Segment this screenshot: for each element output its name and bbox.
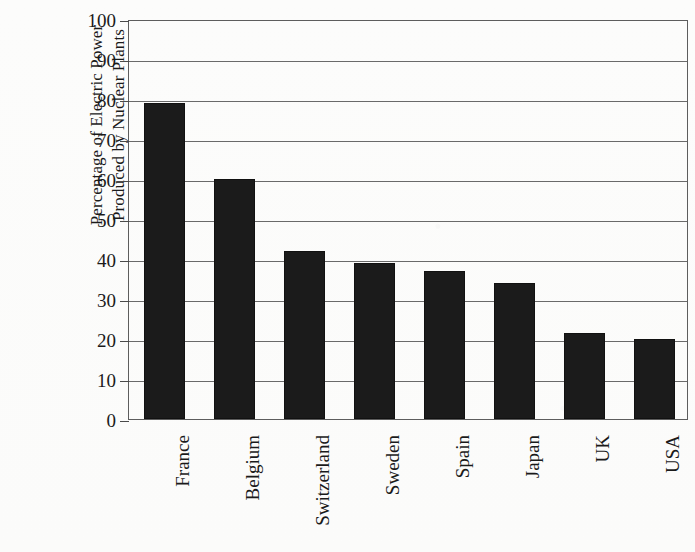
- y-axis-tick-label: 10: [97, 370, 116, 392]
- y-axis-tick: [120, 61, 129, 62]
- x-axis-tick-label: Switzerland: [312, 433, 334, 524]
- y-axis-tick-label: 100: [88, 10, 117, 32]
- bar-france: [144, 103, 185, 419]
- y-axis-tick: [120, 301, 129, 302]
- bar-belgium: [214, 179, 255, 419]
- x-axis-tick-label-text: Switzerland: [312, 435, 334, 526]
- y-axis-tick-label: 0: [107, 410, 117, 432]
- x-axis-tick-label-text: Japan: [522, 435, 544, 478]
- y-axis-tick-label: 50: [97, 210, 116, 232]
- y-axis-tick: [120, 101, 129, 102]
- bar-sweden: [354, 263, 395, 419]
- plot-area: 0102030405060708090100 FranceBelgiumSwit…: [128, 20, 688, 420]
- x-axis-tick-label: Sweden: [382, 433, 404, 493]
- y-axis-tick: [120, 221, 129, 222]
- y-axis-tick-label: 80: [97, 90, 116, 112]
- gridline: [129, 61, 687, 62]
- bar-usa: [634, 339, 675, 419]
- gridline: [129, 101, 687, 102]
- y-axis-tick-label: 40: [97, 250, 116, 272]
- x-axis-tick-label-text: France: [172, 435, 194, 487]
- y-axis-tick: [120, 21, 129, 22]
- bar-chart-figure: Percentage of Electric Power Produced by…: [0, 0, 695, 552]
- y-axis-tick: [120, 341, 129, 342]
- x-axis-tick-label-text: USA: [662, 435, 684, 473]
- y-axis-title: Percentage of Electric Power Produced by…: [83, 0, 133, 325]
- y-axis-tick: [120, 421, 129, 422]
- y-axis-tick: [120, 261, 129, 262]
- y-axis-tick-label: 60: [97, 170, 116, 192]
- x-axis-tick-label-text: Spain: [452, 435, 474, 478]
- y-axis-tick-label: 90: [97, 50, 116, 72]
- y-axis-tick-label: 20: [97, 330, 116, 352]
- bar-switzerland: [284, 251, 325, 419]
- x-axis-tick-label: UK: [592, 433, 614, 460]
- x-axis-tick-label-text: UK: [592, 435, 614, 462]
- bar-uk: [564, 333, 605, 419]
- y-axis-tick: [120, 381, 129, 382]
- x-axis-tick-label-text: Belgium: [242, 435, 264, 500]
- y-axis-tick-label: 70: [97, 130, 116, 152]
- x-axis-tick-label: France: [172, 433, 194, 485]
- gridline: [129, 141, 687, 142]
- x-axis-tick-label-text: Sweden: [382, 435, 404, 495]
- bar-japan: [494, 283, 535, 419]
- y-axis-tick: [120, 181, 129, 182]
- bar-spain: [424, 271, 465, 419]
- x-axis-tick-label: Belgium: [242, 433, 264, 498]
- x-axis-tick-label: Japan: [522, 433, 544, 476]
- x-axis-tick-label: Spain: [452, 433, 474, 476]
- y-axis-tick-label: 30: [97, 290, 116, 312]
- x-axis-tick-label: USA: [662, 433, 684, 471]
- y-axis-tick: [120, 141, 129, 142]
